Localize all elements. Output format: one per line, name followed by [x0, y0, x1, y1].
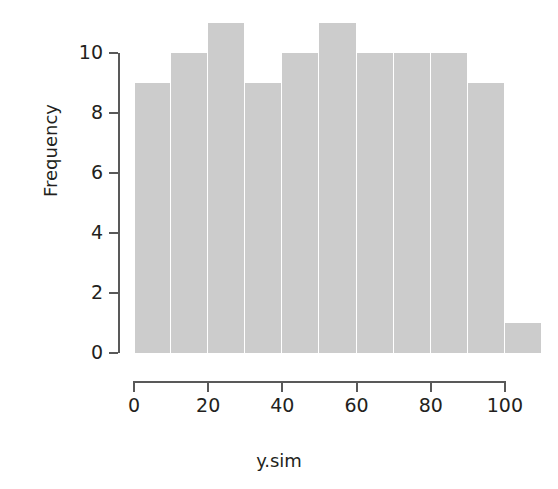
- histogram-bar: [394, 53, 431, 353]
- x-axis-tick: [281, 381, 283, 392]
- y-axis-tick-label: 4: [63, 223, 103, 242]
- x-axis-tick-label: 80: [396, 396, 466, 415]
- y-axis-tick-label: 10: [63, 43, 103, 62]
- plot-area: [134, 10, 542, 353]
- histogram-bar: [208, 23, 245, 353]
- x-axis-tick-label: 40: [247, 396, 317, 415]
- histogram-bar: [282, 53, 319, 353]
- histogram-bar: [319, 23, 356, 353]
- x-axis-tick-label: 60: [322, 396, 392, 415]
- x-axis-tick: [356, 381, 358, 392]
- y-axis-tick-label: 6: [63, 163, 103, 182]
- y-axis-tick-label: 2: [63, 283, 103, 302]
- histogram-bar: [171, 53, 208, 353]
- y-axis-line: [118, 53, 120, 353]
- y-axis-tick-labels: 0246810: [58, 0, 103, 489]
- histogram-bar: [468, 83, 505, 353]
- x-axis-line: [134, 381, 506, 383]
- histogram-plot: 0246810 020406080100 Frequency y.sim: [0, 0, 558, 489]
- histogram-bar: [505, 323, 542, 353]
- y-axis-tick-label: 0: [63, 343, 103, 362]
- x-axis-tick: [504, 381, 506, 392]
- x-axis-title: y.sim: [0, 450, 558, 471]
- y-axis-tick: [109, 52, 118, 54]
- y-axis-tick: [109, 352, 118, 354]
- y-axis-tick: [109, 112, 118, 114]
- y-axis-tick: [109, 232, 118, 234]
- x-axis-tick: [430, 381, 432, 392]
- histogram-bar: [357, 53, 394, 353]
- x-axis-tick-label: 20: [173, 396, 243, 415]
- y-axis-tick-label: 8: [63, 103, 103, 122]
- x-axis-tick: [133, 381, 135, 392]
- x-axis-tick: [207, 381, 209, 392]
- histogram-bar: [134, 83, 171, 353]
- y-axis-tick: [109, 172, 118, 174]
- histogram-bar: [245, 83, 282, 353]
- x-axis-tick-label: 0: [99, 396, 169, 415]
- histogram-bar: [431, 53, 468, 353]
- y-axis-title: Frequency: [40, 81, 61, 221]
- x-axis-tick-label: 100: [470, 396, 540, 415]
- y-axis-tick: [109, 292, 118, 294]
